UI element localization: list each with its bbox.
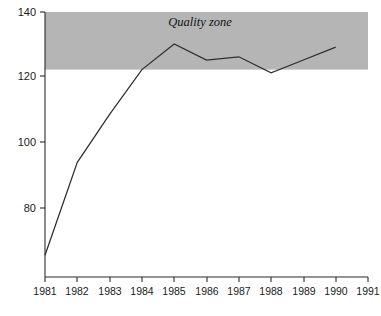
y-tick-label-120: 120: [18, 70, 36, 82]
y-axis-group: 140 120 100 80: [18, 6, 45, 277]
data-series-line: [45, 44, 336, 255]
y-tick-label-100: 100: [18, 136, 36, 148]
x-tick-label-1984: 1984: [130, 285, 154, 297]
y-tick-label-140: 140: [18, 6, 36, 18]
x-tick-label-1988: 1988: [259, 285, 283, 297]
y-tick-label-80: 80: [24, 202, 36, 214]
x-tick-label-1982: 1982: [65, 285, 89, 297]
line-chart-quality-zone: Quality zone 140 120 100 80: [0, 0, 381, 316]
x-tick-label-1985: 1985: [162, 285, 186, 297]
chart-canvas: Quality zone 140 120 100 80: [0, 0, 381, 316]
x-tick-label-1989: 1989: [292, 285, 316, 297]
x-tick-label-1986: 1986: [195, 285, 219, 297]
x-tick-label-1991: 1991: [356, 285, 380, 297]
x-tick-label-1987: 1987: [227, 285, 251, 297]
x-tick-label-1990: 1990: [324, 285, 348, 297]
x-axis-group: 1981 1982 1983 1984 1985 1986 1987 1988 …: [33, 277, 380, 297]
x-tick-label-1981: 1981: [33, 285, 57, 297]
quality-zone-label: Quality zone: [168, 15, 232, 29]
x-tick-label-1983: 1983: [98, 285, 122, 297]
